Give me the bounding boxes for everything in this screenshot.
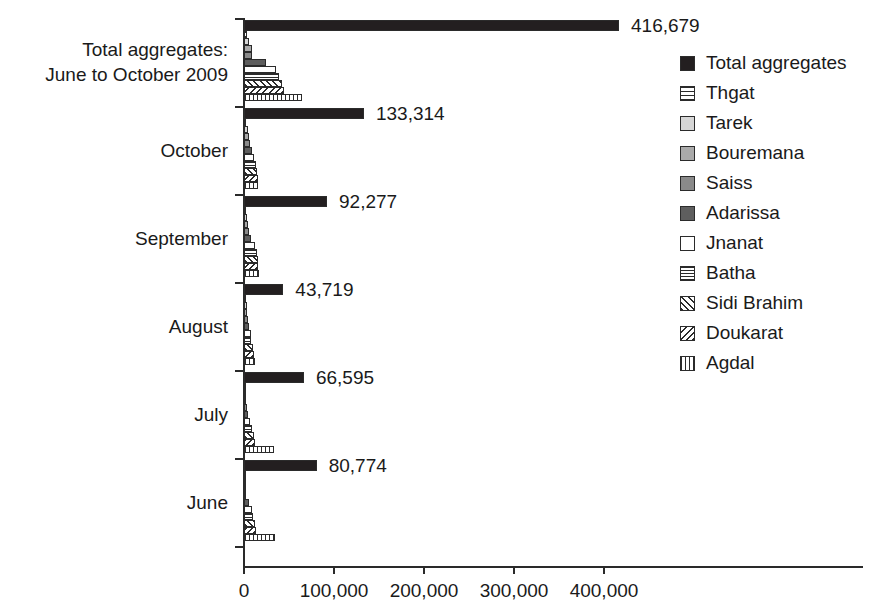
bar-saiss [244,140,250,147]
bar-thgat [244,471,246,478]
bar-bouremana [244,485,246,492]
category-label: July [0,402,228,427]
bar-jnanat [244,418,250,425]
bar-batha [244,161,256,168]
legend-label: Tarek [706,112,752,134]
legend-swatch-icon [680,146,695,161]
value-label: 133,314 [376,103,445,125]
legend-item[interactable]: Adarissa [680,198,878,228]
bar-saiss [244,316,248,323]
x-tick [243,566,245,574]
bar-agdal [244,94,302,101]
bar-sidi-brahim [244,256,258,263]
x-tick [603,566,605,574]
bar-sidi-brahim [244,80,282,87]
bar-batha [244,337,251,344]
bar-sidi-brahim [244,344,253,351]
legend-swatch-icon [680,56,695,71]
bar-bouremana [244,309,247,316]
legend-item[interactable]: Bouremana [680,138,878,168]
bar-tarek [244,126,248,133]
legend-swatch-icon [680,296,695,311]
legend-label: Total aggregates [706,52,847,74]
bar-adarissa [244,59,266,66]
legend-swatch-icon [680,176,695,191]
bar-doukarat [244,351,254,358]
category-label: September [0,226,228,251]
legend-item[interactable]: Doukarat [680,318,878,348]
bar-agdal [244,182,258,189]
legend-item[interactable]: Saiss [680,168,878,198]
bar-jnanat [244,506,252,513]
bar-batha [244,425,252,432]
x-tick [333,566,335,574]
value-label: 92,277 [339,191,397,213]
bar-total-aggregates [244,372,304,383]
bar-sidi-brahim [244,432,254,439]
legend-item[interactable]: Total aggregates [680,48,878,78]
y-tick [235,546,244,548]
bar-tarek [244,390,246,397]
bar-saiss [244,52,252,59]
bar-saiss [244,228,249,235]
legend-item[interactable]: Agdal [680,348,878,378]
legend-item[interactable]: Thgat [680,78,878,108]
y-tick [235,106,244,108]
bar-batha [244,73,279,80]
category-label: October [0,138,228,163]
bar-saiss [244,492,246,499]
legend-swatch-icon [680,326,695,341]
bar-sidi-brahim [244,520,255,527]
bar-adarissa [244,411,248,418]
y-tick [235,18,244,20]
legend-swatch-icon [680,206,695,221]
bar-doukarat [244,527,256,534]
bar-bouremana [244,397,246,404]
bar-total-aggregates [244,284,283,295]
bar-total-aggregates [244,20,619,31]
legend-label: Thgat [706,82,755,104]
legend-item[interactable]: Batha [680,258,878,288]
bar-jnanat [244,242,255,249]
x-tick [513,566,515,574]
bar-agdal [244,358,255,365]
bar-thgat [244,207,246,214]
y-tick [235,194,244,196]
bar-bouremana [244,45,252,52]
legend-label: Batha [706,262,756,284]
legend-item[interactable]: Sidi Brahim [680,288,878,318]
y-tick [235,458,244,460]
legend-label: Saiss [706,172,752,194]
bar-tarek [244,38,249,45]
bar-tarek [244,214,247,221]
bar-total-aggregates [244,108,364,119]
bar-jnanat [244,154,254,161]
bar-adarissa [244,323,249,330]
bar-thgat [244,119,246,126]
legend-swatch-icon [680,116,695,131]
bar-thgat [244,383,246,390]
legend-swatch-icon [680,86,695,101]
legend-swatch-icon [680,356,695,371]
bar-jnanat [244,66,276,73]
legend-item[interactable]: Tarek [680,108,878,138]
y-tick [235,282,244,284]
bar-tarek [244,478,246,485]
bar-adarissa [244,235,251,242]
bar-batha [244,513,253,520]
category-label: June [0,490,228,515]
bar-adarissa [244,147,252,154]
plot-area: 0100,000200,000300,000400,000 416,679133… [244,18,654,566]
category-label: Total aggregates: June to October 2009 [0,37,228,87]
legend-label: Sidi Brahim [706,292,803,314]
bar-agdal [244,270,259,277]
bar-total-aggregates [244,196,327,207]
x-tick-label: 400,000 [544,580,664,602]
bar-doukarat [244,175,258,182]
chart-legend: Total aggregatesThgatTarekBouremanaSaiss… [680,48,878,378]
bar-batha [244,249,257,256]
bar-doukarat [244,87,284,94]
legend-swatch-icon [680,236,695,251]
legend-item[interactable]: Jnanat [680,228,878,258]
category-label: August [0,314,228,339]
